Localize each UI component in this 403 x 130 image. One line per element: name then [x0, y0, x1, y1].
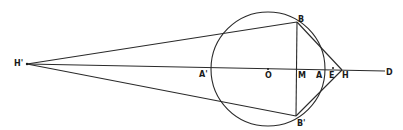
line-h-prime-b — [27, 22, 297, 64]
point-e-marker — [332, 67, 334, 69]
label-e: E — [329, 71, 334, 80]
point-h-prime-marker — [26, 63, 28, 65]
label-a: A — [316, 71, 323, 80]
label-a-prime: A' — [199, 70, 208, 79]
chord-b-b-prime — [296, 22, 297, 116]
geometry-diagram: H' A' O M A E H D B B' — [0, 0, 403, 130]
label-d: D — [386, 68, 393, 77]
tangent-b-h — [297, 22, 342, 70]
label-h: H — [342, 71, 349, 80]
label-b: B — [298, 15, 304, 24]
point-o-marker — [267, 68, 269, 70]
label-o: O — [265, 71, 272, 80]
label-m: M — [298, 71, 306, 80]
label-h-prime: H' — [14, 59, 23, 68]
label-b-prime: B' — [297, 119, 306, 128]
line-h-prime-b-prime — [27, 64, 296, 116]
